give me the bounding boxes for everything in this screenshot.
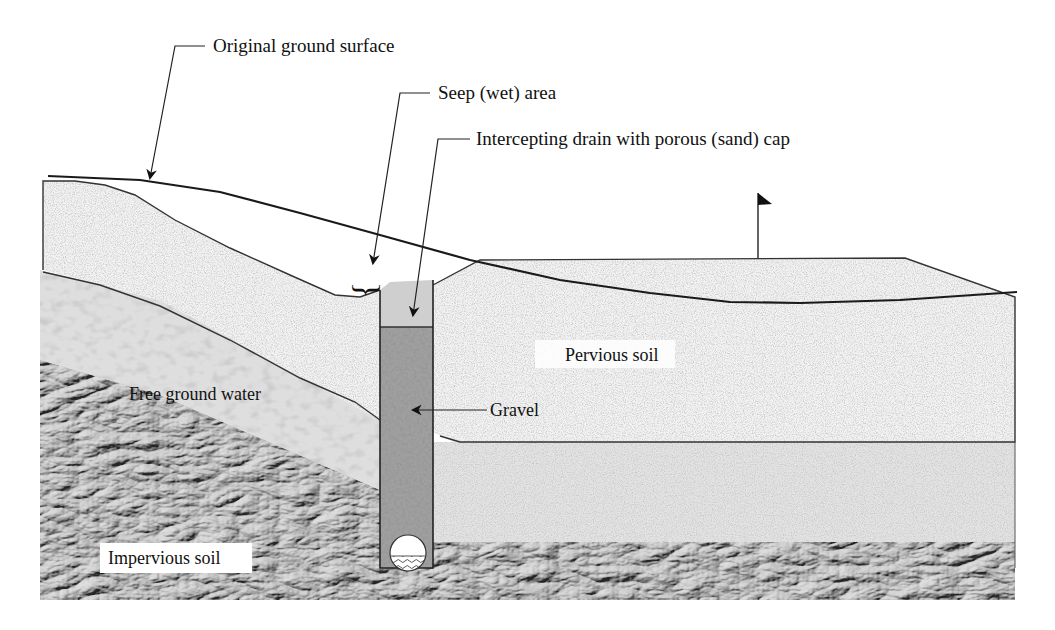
label-gravel: Gravel [490, 400, 539, 420]
label-seep-area: Seep (wet) area [438, 82, 557, 104]
label-pervious-soil: Pervious soil [565, 345, 659, 365]
flag-icon [758, 193, 772, 258]
saturated-soil-band [433, 442, 1015, 542]
curly-brace-icon: { [345, 282, 382, 298]
label-original-ground-surface: Original ground surface [213, 35, 395, 56]
drain-cross-section-diagram: { Original ground surface Seep (wet) are… [0, 0, 1055, 630]
sand-cap [380, 280, 433, 327]
intercepting-drain-trench [380, 280, 433, 572]
label-free-ground-water: Free ground water [129, 384, 261, 404]
ground-surface-leader [150, 46, 205, 178]
label-impervious-soil: Impervious soil [108, 548, 221, 568]
seep-area-leader [373, 93, 430, 263]
label-intercepting-drain: Intercepting drain with porous (sand) ca… [476, 128, 790, 150]
